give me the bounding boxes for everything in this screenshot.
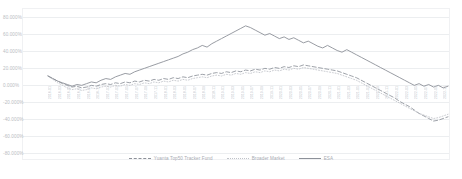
series-lines xyxy=(48,8,448,144)
y-axis-tick-label: 80.000% xyxy=(3,15,47,20)
y-axis-tick-label: -60.000% xyxy=(3,134,47,139)
y-axis-tick-label: -40.000% xyxy=(3,117,47,122)
y-axis-tick-label: 60.000% xyxy=(3,32,47,37)
chart-legend: Yuanta Top50 Tracker FundBroader MarketE… xyxy=(0,150,462,166)
y-axis-tick-label: -20.000% xyxy=(3,100,47,105)
legend-swatch-icon xyxy=(129,156,151,160)
legend-label: ESA xyxy=(324,156,334,161)
y-axis-tick-label: 40.000% xyxy=(3,49,47,54)
y-axis-tick-label: 0.000% xyxy=(3,83,47,88)
legend-label: Broader Market xyxy=(252,156,285,161)
series-line xyxy=(48,68,448,119)
legend-swatch-icon xyxy=(227,156,249,160)
series-line xyxy=(48,26,448,88)
legend-item[interactable]: ESA xyxy=(299,156,334,161)
plot-area xyxy=(48,8,448,144)
legend-item[interactable]: Broader Market xyxy=(227,156,285,161)
chart-card: 80.000%60.000%40.000%20.000%0.000%-20.00… xyxy=(0,0,462,179)
y-axis-tick-label: 20.000% xyxy=(3,66,47,71)
legend-item[interactable]: Yuanta Top50 Tracker Fund xyxy=(129,156,213,161)
legend-label: Yuanta Top50 Tracker Fund xyxy=(154,156,213,161)
legend-swatch-icon xyxy=(299,156,321,160)
